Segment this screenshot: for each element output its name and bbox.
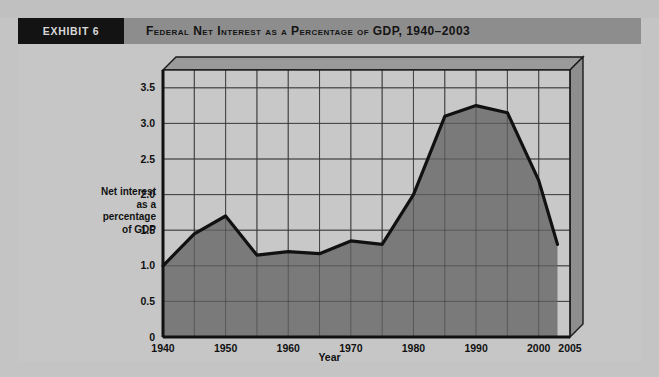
page-bottom-note xyxy=(300,370,640,377)
y-axis-title-line-1: Net interest xyxy=(52,186,156,199)
x-axis-title: Year xyxy=(0,351,659,363)
y-axis-title-line-3: percentage xyxy=(52,211,156,224)
exhibit-number-tag: EXHIBIT 6 xyxy=(18,18,124,44)
y-axis-title-line-4: of GDP xyxy=(52,224,156,237)
page-top-margin xyxy=(0,0,659,18)
exhibit-page: EXHIBIT 6 Federal Net Interest as a Perc… xyxy=(0,0,659,377)
y-axis-title: Net interest as a percentage of GDP xyxy=(52,186,156,236)
exhibit-title: Federal Net Interest as a Percentage of … xyxy=(124,18,641,44)
exhibit-header-bar: EXHIBIT 6 Federal Net Interest as a Perc… xyxy=(18,18,641,44)
y-axis-title-line-2: as a xyxy=(52,199,156,212)
